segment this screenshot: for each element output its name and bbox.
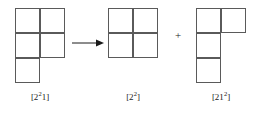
young-diagram-source-label: [221] xyxy=(15,92,65,103)
young-diagram-result-1 xyxy=(108,8,158,58)
young-diagram-cell xyxy=(221,8,246,33)
young-diagram-cell xyxy=(108,33,133,58)
young-diagram-result-1-label: [22] xyxy=(108,92,158,103)
young-diagram-result-2-label: [212] xyxy=(196,92,246,103)
young-diagram-cell xyxy=(196,33,221,58)
young-diagram-result-2 xyxy=(196,8,246,83)
young-diagram-cell xyxy=(133,8,158,33)
young-diagram-cell xyxy=(196,58,221,83)
young-diagram-cell xyxy=(15,33,40,58)
young-diagram-cell xyxy=(40,33,65,58)
young-diagram-cell xyxy=(15,8,40,33)
young-diagram-cell xyxy=(133,33,158,58)
right-arrow-svg xyxy=(72,38,106,48)
plus-operator: + xyxy=(175,30,181,41)
young-diagram-cell xyxy=(108,8,133,33)
label-superscript: 2 xyxy=(38,90,41,97)
young-diagram-source xyxy=(15,8,65,83)
figure-canvas: [221] [22] + [212] xyxy=(0,0,260,115)
young-diagram-cell xyxy=(40,8,65,33)
right-arrow-icon xyxy=(72,34,106,52)
label-superscript: 2 xyxy=(224,90,227,97)
young-diagram-cell xyxy=(15,58,40,83)
young-diagram-cell xyxy=(196,8,221,33)
label-superscript: 2 xyxy=(134,90,137,97)
